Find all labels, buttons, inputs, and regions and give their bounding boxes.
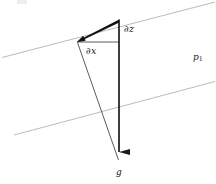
label-dz-var: z [129,23,134,34]
label-dx-var: x [91,45,96,56]
label-gravity: g [116,168,122,177]
label-dz: ∂z [124,24,134,34]
lower-plane-trace [14,82,215,136]
label-plane-p1: p1 [193,53,203,62]
arrow-left-thick-icon [77,20,120,43]
label-dx: ∂x [86,46,96,56]
diagram-canvas [0,0,216,184]
hypotenuse [78,43,119,161]
vector-diagram-figure: ∂z ∂x p1 g [0,0,216,184]
label-plane-subscript: 1 [199,55,203,63]
upper-plane-trace [2,2,215,58]
